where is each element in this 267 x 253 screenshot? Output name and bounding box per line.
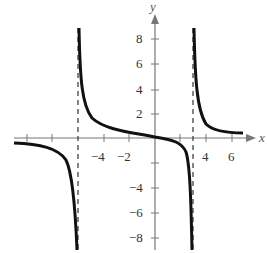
y-tick-label: −6 — [129, 205, 143, 220]
y-tick-label: 8 — [136, 31, 143, 46]
curve-right-branch — [194, 28, 243, 133]
x-tick-label: −4 — [91, 149, 105, 164]
x-tick-label: 4 — [202, 149, 209, 164]
curve-left-branch — [14, 143, 77, 250]
y-tick-label: 4 — [136, 82, 143, 97]
x-axis-label: x — [258, 130, 265, 145]
x-axis-arrow-icon — [246, 134, 256, 142]
function-graph: x y −4 −2 4 6 8 6 4 2 −4 −6 −8 — [0, 0, 267, 253]
y-axis-arrow-icon — [151, 14, 159, 24]
y-tick-label: −8 — [129, 230, 143, 245]
y-tick-label: 6 — [136, 56, 143, 71]
y-tick-label: −4 — [129, 180, 143, 195]
x-tick-label: 6 — [228, 149, 235, 164]
y-axis-label: y — [148, 0, 156, 14]
x-tick-label: −2 — [117, 149, 131, 164]
y-tick-label: 2 — [136, 106, 143, 121]
